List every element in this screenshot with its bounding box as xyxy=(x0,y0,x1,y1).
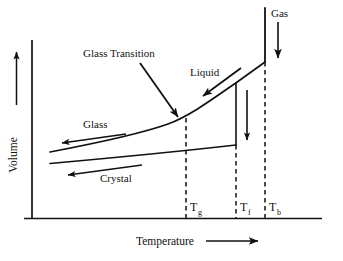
x-axis-label-group: Temperature xyxy=(136,235,258,248)
liquid-label: Liquid xyxy=(190,66,220,78)
glass-transition-leader-arrow xyxy=(140,63,178,117)
tick-tb-base: T xyxy=(269,200,277,214)
tick-tf-base: T xyxy=(240,200,248,214)
tick-tb-subscript: b xyxy=(277,208,281,217)
tick-label-tf: T f xyxy=(240,200,251,217)
tick-tg-subscript: g xyxy=(198,208,202,217)
axis-group xyxy=(24,40,322,219)
gas-label: Gas xyxy=(271,7,288,19)
crystal-curve xyxy=(50,145,236,164)
tick-label-tg: T g xyxy=(190,200,202,217)
x-axis-label: Temperature xyxy=(136,235,194,248)
crystal-label: Crystal xyxy=(100,172,132,184)
phase-diagram-figure: Volume Temperature Glass xyxy=(0,0,343,261)
diagram-canvas: Volume Temperature Glass xyxy=(0,0,343,261)
glass-transition-label: Glass Transition xyxy=(83,47,155,59)
y-axis-label-group: Volume xyxy=(7,52,19,173)
glass-label: Glass xyxy=(83,118,107,130)
tick-label-tb: T b xyxy=(269,200,281,217)
y-axis-label: Volume xyxy=(7,137,19,173)
temperature-markers xyxy=(186,62,265,218)
tick-tf-subscript: f xyxy=(248,208,251,217)
liquid-glass-curve xyxy=(50,62,265,152)
tick-tg-base: T xyxy=(190,200,198,214)
